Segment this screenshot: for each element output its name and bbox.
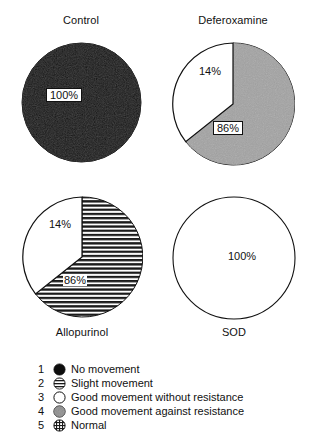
panel-deferoxamine: Deferoxamine 14% 86% [163, 14, 303, 180]
legend-item: 2 Slight movement [38, 376, 308, 390]
pie-value-label-sod: 100% [228, 250, 256, 262]
pie-grain-overlay [22, 43, 141, 162]
pie-deferoxamine: 14% 86% [171, 42, 295, 166]
legend-label: Good movement against resistance [71, 405, 244, 417]
legend-label: No movement [71, 363, 139, 375]
pie-control: 100% [21, 42, 142, 163]
pie-deferoxamine-svg [171, 42, 295, 166]
legend-number: 3 [38, 391, 50, 403]
panel-title-sod: SOD [166, 326, 302, 338]
legend-item: 3 Good movement without resistance [38, 390, 308, 404]
pie-control-svg [21, 42, 142, 163]
panel-title-allopurinol: Allopurinol [16, 326, 148, 338]
legend-number: 2 [38, 377, 50, 389]
horizontal-lines-circle-icon [53, 377, 66, 390]
legend-item: 5 Normal [38, 418, 308, 432]
panel-title-control: Control [14, 14, 148, 26]
legend-item: 4 Good movement against resistance [38, 404, 308, 418]
pie-allopurinol-svg [21, 196, 143, 318]
pie-allopurinol: 14% 86% [21, 196, 143, 318]
legend-number: 5 [38, 419, 50, 431]
pie-value-label-deferoxamine-86: 86% [213, 121, 243, 135]
filled-black-circle-icon [53, 363, 66, 376]
legend: 1 No movement 2 Slight movement 3 [38, 362, 308, 432]
legend-item: 1 No movement [38, 362, 308, 376]
panel-sod: 100% SOD [166, 196, 302, 338]
panel-allopurinol: 14% 86% Allopurinol [16, 196, 148, 338]
legend-label: Normal [71, 419, 106, 431]
legend-label: Good movement without resistance [71, 391, 243, 403]
gray-filled-circle-icon [53, 405, 66, 418]
legend-label: Slight movement [71, 377, 153, 389]
pie-value-label-allopurinol-14: 14% [49, 218, 71, 230]
crosshatch-circle-icon [53, 419, 66, 432]
panel-control: Control 100% [14, 14, 148, 180]
legend-number: 1 [38, 363, 50, 375]
pie-value-label-allopurinol-86: 86% [63, 274, 87, 286]
pie-sod: 100% [172, 196, 296, 320]
pie-value-label-deferoxamine-14: 14% [199, 65, 221, 77]
legend-number: 4 [38, 405, 50, 417]
pie-value-label-control: 100% [46, 88, 82, 102]
open-white-circle-icon [53, 391, 66, 404]
panel-title-deferoxamine: Deferoxamine [163, 14, 303, 26]
